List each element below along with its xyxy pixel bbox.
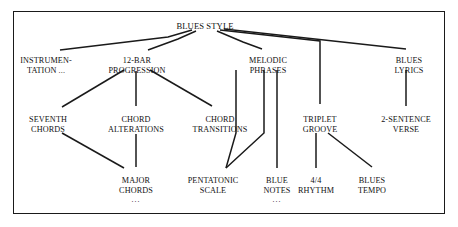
node-instrumentation[interactable]: INSTRUMEN-TATION ... [20, 56, 72, 75]
node-label-line: MELODIC [249, 56, 287, 66]
node-blues-style[interactable]: BLUES STYLE [176, 22, 233, 32]
node-pentatonic-scale[interactable]: PENTATONICSCALE [188, 176, 239, 195]
node-blues-lyrics[interactable]: BLUESLYRICS [395, 56, 424, 75]
node-blue-notes[interactable]: BLUENOTES... [264, 176, 291, 205]
node-label-line: BLUES [358, 176, 386, 186]
node-label-line: NOTES [264, 186, 291, 196]
node-label-line: TATION ... [20, 66, 72, 76]
node-seventh-chords[interactable]: SEVENTHCHORDS [29, 115, 67, 134]
node-label-line: 4/4 [298, 176, 334, 186]
node-4-4-rhythm[interactable]: 4/4RHYTHM [298, 176, 334, 195]
node-label-line: ALTERATIONS [108, 125, 164, 135]
node-label-line: ... [119, 195, 153, 205]
node-label-line: CHORD [108, 115, 164, 125]
node-label-line: BLUE [264, 176, 291, 186]
node-label-line: ... [264, 195, 291, 205]
node-label-line: GROOVE [303, 125, 338, 135]
node-label-line: CHORDS [29, 125, 67, 135]
node-label-line: 2-SENTENCE [381, 115, 431, 125]
node-label-line: BLUES STYLE [176, 22, 233, 32]
node-label-line: PHRASES [249, 66, 287, 76]
node-blues-tempo[interactable]: BLUESTEMPO [358, 176, 386, 195]
node-label-line: PENTATONIC [188, 176, 239, 186]
node-label-line: VERSE [381, 125, 431, 135]
node-label-line: TRIPLET [303, 115, 338, 125]
node-label-line: CHORD [193, 115, 248, 125]
node-label-line: TRANSITIONS [193, 125, 248, 135]
node-label-line: SEVENTH [29, 115, 67, 125]
node-chord-transitions[interactable]: CHORDTRANSITIONS [193, 115, 248, 134]
node-chord-alterations[interactable]: CHORDALTERATIONS [108, 115, 164, 134]
node-label-line: SCALE [188, 186, 239, 196]
node-label-line: MAJOR [119, 176, 153, 186]
node-label-line: LYRICS [395, 66, 424, 76]
diagram-canvas: BLUES STYLEINSTRUMEN-TATION ...12-BARPRO… [0, 0, 458, 227]
node-triplet-groove[interactable]: TRIPLETGROOVE [303, 115, 338, 134]
node-12-bar-progression[interactable]: 12-BARPROGRESSION [108, 56, 165, 75]
node-label-line: RHYTHM [298, 186, 334, 196]
node-label-line: TEMPO [358, 186, 386, 196]
node-label-line: CHORDS [119, 186, 153, 196]
node-2-sentence-verse[interactable]: 2-SENTENCEVERSE [381, 115, 431, 134]
node-label-line: PROGRESSION [108, 66, 165, 76]
node-melodic-phrases[interactable]: MELODICPHRASES [249, 56, 287, 75]
node-label-line: 12-BAR [108, 56, 165, 66]
node-label-line: BLUES [395, 56, 424, 66]
node-major-chords[interactable]: MAJORCHORDS... [119, 176, 153, 205]
node-label-line: INSTRUMEN- [20, 56, 72, 66]
